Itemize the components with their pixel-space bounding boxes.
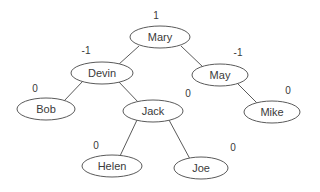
node-label-jack: Jack <box>142 105 165 117</box>
tree-edge-may-mike <box>238 84 258 104</box>
tree-node-mary[interactable]: Mary <box>130 26 190 48</box>
tree-node-joe[interactable]: Joe <box>174 157 228 179</box>
tree-node-may[interactable]: May <box>192 64 248 86</box>
balance-factor-devin: -1 <box>82 45 91 56</box>
balance-factor-jack: 0 <box>185 88 191 99</box>
balance-factor-bob: 0 <box>32 83 38 94</box>
nodes-layer: MaryDevinMayBobJackMikeHelenJoe <box>17 26 300 179</box>
tree-node-bob[interactable]: Bob <box>17 98 75 120</box>
node-label-bob: Bob <box>36 103 56 115</box>
tree-node-helen[interactable]: Helen <box>82 155 142 177</box>
balance-factor-may: -1 <box>234 47 243 58</box>
balance-factor-helen: 0 <box>93 140 99 151</box>
node-label-mary: Mary <box>148 31 173 43</box>
tree-edge-jack-joe <box>169 120 190 159</box>
node-label-helen: Helen <box>98 160 127 172</box>
node-label-devin: Devin <box>88 67 116 79</box>
tree-edge-mary-devin <box>118 46 139 65</box>
balance-factor-joe: 0 <box>230 142 236 153</box>
tree-node-mike[interactable]: Mike <box>244 101 300 123</box>
tree-node-jack[interactable]: Jack <box>123 100 183 122</box>
tree-edge-jack-helen <box>120 120 137 156</box>
tree-node-devin[interactable]: Devin <box>71 62 133 84</box>
tree-diagram-svg: MaryDevinMayBobJackMikeHelenJoe 1-1-1000… <box>0 0 320 192</box>
tree-diagram-canvas: MaryDevinMayBobJackMikeHelenJoe 1-1-1000… <box>0 0 320 192</box>
node-label-joe: Joe <box>192 162 210 174</box>
balance-factor-mary: 1 <box>153 10 159 21</box>
balance-factor-mike: 0 <box>285 85 291 96</box>
node-label-mike: Mike <box>260 106 283 118</box>
tree-edge-mary-may <box>181 46 203 67</box>
tree-edge-devin-bob <box>64 81 83 101</box>
node-label-may: May <box>210 69 231 81</box>
tree-edge-devin-jack <box>118 81 139 103</box>
